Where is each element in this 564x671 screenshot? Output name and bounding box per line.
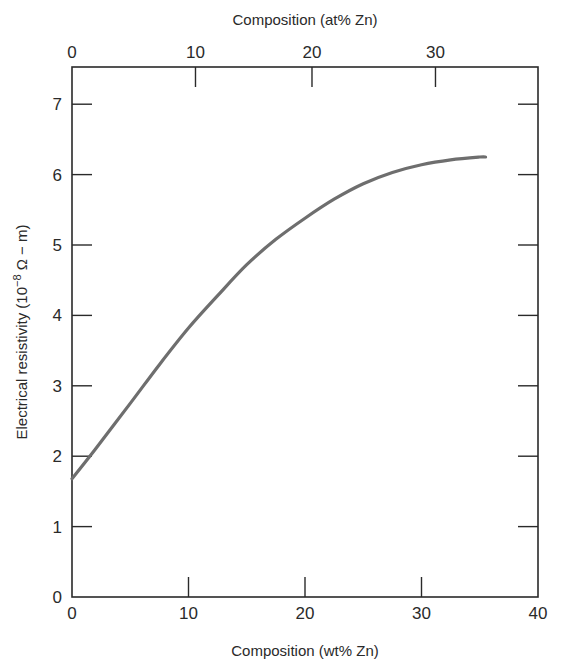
- x-tick-label: 20: [296, 604, 315, 623]
- x2-tick-label: 30: [426, 43, 445, 62]
- plot-frame: [72, 67, 538, 597]
- x-tick-label: 30: [412, 604, 431, 623]
- y-tick-label: 7: [53, 95, 62, 114]
- y-right-axis: [518, 104, 538, 526]
- x-top-axis-title: Composition (at% Zn): [232, 11, 377, 28]
- y-tick-label: 2: [53, 447, 62, 466]
- y-tick-label: 4: [53, 306, 62, 325]
- y-tick-label: 1: [53, 518, 62, 537]
- x2-tick-label: 0: [67, 43, 76, 62]
- y-tick-label: 6: [53, 166, 62, 185]
- y-axis-title: Electrical resistivity (10−8 Ω − m): [11, 224, 30, 439]
- resistivity-chart: Composition (at% Zn) 0102030 010203040 0…: [0, 0, 564, 671]
- resistivity-curve: [72, 157, 486, 479]
- svg-text:Composition (at% Zn): Composition (at% Zn): [232, 11, 377, 28]
- y-tick-label: 0: [53, 588, 62, 607]
- x-bottom-axis: 010203040: [67, 577, 547, 623]
- x-tick-label: 0: [67, 604, 76, 623]
- x-top-axis: 0102030: [67, 43, 445, 87]
- x-bottom-axis-title: Composition (wt% Zn): [231, 642, 379, 659]
- y-tick-label: 3: [53, 377, 62, 396]
- x2-tick-label: 20: [303, 43, 322, 62]
- x-tick-label: 10: [179, 604, 198, 623]
- x-tick-label: 40: [529, 604, 548, 623]
- x2-tick-label: 10: [186, 43, 205, 62]
- y-tick-label: 5: [53, 236, 62, 255]
